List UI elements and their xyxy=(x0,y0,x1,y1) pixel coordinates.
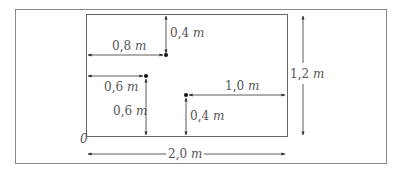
point-p1 xyxy=(164,53,168,57)
p3-horizontal-label: 1,0 m xyxy=(225,79,259,93)
point-p2 xyxy=(144,74,148,78)
p1-vertical-label: 0,4 m xyxy=(170,26,204,40)
p2-vertical-label: 0,6 m xyxy=(113,104,147,118)
p3-vertical-label: 0,4 m xyxy=(190,109,224,123)
total-width-label: 2,0 m xyxy=(168,147,202,161)
total-height-label: 1,2 m xyxy=(290,67,324,81)
origin-label: 0 xyxy=(80,132,88,146)
diagram-canvas: 0 0,8 m 0,4 m 0,6 m 0,6 m 1,0 m 0,4 m 1,… xyxy=(0,0,400,171)
p1-horizontal-label: 0,8 m xyxy=(112,39,146,53)
point-p3 xyxy=(184,93,188,97)
p2-horizontal-label: 0,6 m xyxy=(104,80,138,94)
